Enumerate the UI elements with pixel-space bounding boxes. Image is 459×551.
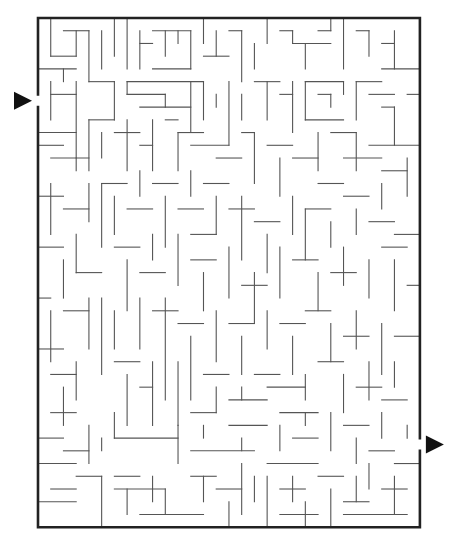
maze-board [0,0,459,551]
entrance-arrow-icon [14,92,32,110]
exit-arrow-icon [426,435,444,453]
maze-walls [38,18,420,527]
